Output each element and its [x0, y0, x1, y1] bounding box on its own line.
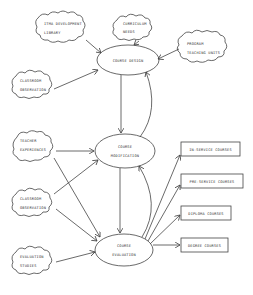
node-course-design: COURSE DESIGN — [97, 45, 159, 75]
box-in-service-courses: IN-SERVICE COURSES — [181, 142, 240, 156]
arrow-classroom2-to-modification — [54, 160, 98, 194]
cloud-label-line2: STUDIES — [20, 264, 37, 268]
cloud-curriculum-needs: CURRICULUM NEEDS — [113, 14, 152, 40]
cloud-label-line1: CLASSROOM — [20, 197, 42, 201]
cloud-classroom-observation-2: CLASSROOM OBSERVATION — [12, 188, 52, 216]
node-course-evaluation: COURSE EVALUATION — [95, 234, 153, 266]
arrow-classroom1-to-design — [54, 70, 98, 89]
arrow-evaluation-to-modification — [139, 166, 151, 237]
node-course-modification: COURSE MODIFICATION — [95, 134, 155, 168]
box-label: DEGREE COURSES — [188, 244, 221, 248]
cloud-label-line2: EXPERIENCES — [20, 148, 46, 152]
arrow-evaluation-to-inservice — [145, 155, 180, 239]
cloud-label-line1: PROGRAM — [187, 42, 204, 46]
box-diploma-courses: DIPLOMA COURSES — [181, 206, 231, 220]
cloud-itma-development-library: ITMA DEVELOPMENT LIBRARY — [36, 11, 85, 42]
cloud-label-line1: TEACHER — [20, 139, 37, 143]
node-label-line2: EVALUATION — [112, 253, 136, 257]
arrow-curriculum-to-design — [134, 41, 139, 45]
cloud-label-line2: NEEDS — [123, 30, 135, 34]
node-label: COURSE DESIGN — [113, 59, 144, 63]
box-label: DIPLOMA COURSES — [188, 212, 223, 216]
cloud-teacher-experiences: TEACHER EXPERIENCES — [13, 131, 53, 162]
node-label-line2: MODIFICATION — [111, 154, 139, 158]
cloud-label-line2: LIBRARY — [44, 31, 61, 35]
cloud-label-line1: ITMA DEVELOPMENT — [44, 22, 82, 26]
cloud-label-line1: CURRICULUM — [123, 22, 147, 26]
cloud-classroom-observation-1: CLASSROOM OBSERVATION — [12, 70, 52, 98]
cloud-label-line1: CLASSROOM — [20, 79, 42, 83]
cloud-program-teaching-units: PROGRAM TEACHING UNITS — [177, 30, 227, 62]
cloud-evaluation-studies: EVALUATION STUDIES — [12, 246, 52, 274]
cloud-label-line1: EVALUATION — [20, 255, 44, 259]
cloud-label-line2: OBSERVATION — [20, 206, 46, 210]
cloud-label-line2: TEACHING UNITS — [187, 51, 220, 55]
node-label-line1: COURSE — [118, 145, 132, 149]
cloud-label-line2: OBSERVATION — [20, 88, 46, 92]
box-label: PRE-SERVICE COURSES — [190, 180, 235, 184]
arrow-program-to-design — [158, 49, 179, 59]
arrow-evalstudies-to-evaluation — [56, 252, 95, 262]
box-pre-service-courses: PRE-SERVICE COURSES — [181, 174, 243, 188]
box-label: IN-SERVICE COURSES — [189, 148, 232, 152]
arrow-classroom2-to-evaluation — [56, 209, 97, 241]
node-label-line1: COURSE — [117, 244, 131, 248]
course-development-diagram: ITMA DEVELOPMENT LIBRARY CURRICULUM NEED… — [0, 0, 253, 295]
arrow-itma-to-design — [86, 40, 101, 53]
arrow-modification-to-design — [140, 72, 152, 137]
box-degree-courses: DEGREE COURSES — [181, 238, 228, 252]
